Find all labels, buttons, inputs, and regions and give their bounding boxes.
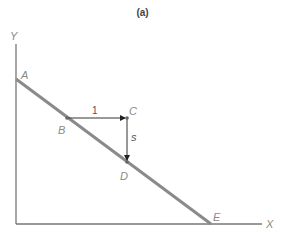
x-axis-label: X (265, 218, 274, 230)
label-c: C (129, 105, 137, 117)
label-d: D (120, 170, 128, 182)
rise-label: s (131, 131, 137, 143)
line-ae (16, 79, 211, 224)
point-b (65, 116, 69, 120)
run-label: 1 (92, 105, 98, 116)
slope-diagram: Y X A B C D E 1 s (0, 0, 285, 233)
point-d (125, 160, 129, 164)
y-axis-label: Y (10, 30, 18, 42)
label-e: E (213, 211, 221, 223)
label-b: B (58, 124, 65, 136)
label-a: A (20, 69, 28, 81)
